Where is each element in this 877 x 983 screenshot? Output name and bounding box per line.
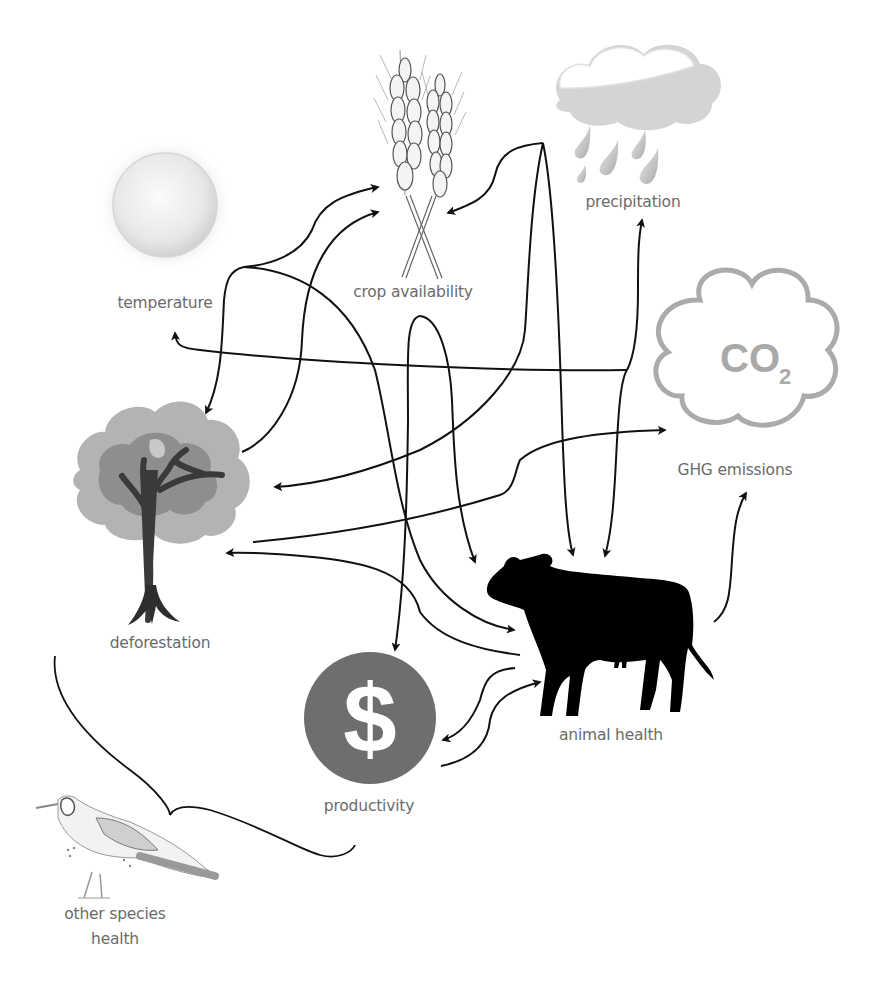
- tree-icon: [73, 402, 250, 625]
- edge-crop-animal: [420, 316, 475, 562]
- edge-temperature-crop: [244, 187, 378, 267]
- causal-diagram: CO 2 $: [0, 0, 877, 983]
- co2-cloud-icon: CO 2: [656, 270, 837, 425]
- label-temperature: temperature: [94, 294, 236, 312]
- edge-animal-productivity: [443, 668, 515, 740]
- edge-animal-deforestation: [227, 553, 520, 655]
- edge-productivity-animal: [441, 682, 540, 766]
- dollar-coin-icon: $: [304, 652, 436, 784]
- label-other-species-health: other species health: [50, 902, 180, 952]
- diagram-canvas: CO 2 $: [0, 0, 877, 983]
- label-deforestation: deforestation: [94, 634, 226, 652]
- bird-icon: [36, 796, 215, 898]
- arrows: [175, 143, 746, 766]
- edge-deforestation-ghg: [253, 430, 665, 542]
- label-other-species-line1: other species: [50, 902, 180, 927]
- co2-text: CO: [720, 336, 780, 380]
- edge-precipitation-crop: [448, 143, 543, 213]
- edge-precipitation-deforestation: [275, 143, 543, 487]
- label-other-species-line2: health: [50, 927, 180, 952]
- edge-temperature-deforestation: [206, 267, 244, 413]
- wheat-icon: [374, 50, 466, 279]
- co2-subscript: 2: [779, 364, 791, 389]
- rain-cloud-icon: [556, 45, 721, 184]
- label-crop-availability: crop availability: [338, 283, 488, 301]
- label-productivity: productivity: [310, 797, 428, 815]
- cow-icon: [487, 554, 714, 716]
- label-precipitation: precipitation: [570, 193, 696, 211]
- edge-precipitation-animal: [543, 143, 573, 555]
- edge-ghg-precipitation: [627, 220, 642, 370]
- label-animal-health: animal health: [546, 726, 676, 744]
- edge-ghg-animal: [605, 370, 627, 556]
- edge-animal-ghg: [714, 493, 746, 622]
- sun-icon: [97, 137, 233, 273]
- dollar-sign: $: [343, 665, 396, 772]
- label-ghg-emissions: GHG emissions: [668, 461, 802, 479]
- edge-temperature-animal: [244, 267, 514, 630]
